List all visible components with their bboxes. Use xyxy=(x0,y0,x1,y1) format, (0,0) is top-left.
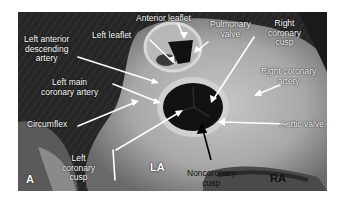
label-right-coronary-cusp: Right coronary cusp xyxy=(268,19,301,48)
label-left-coronary-cusp: Left coronary cusp xyxy=(62,154,95,183)
label-circumflex: Circumflex xyxy=(27,120,67,130)
panel-label: A xyxy=(26,175,34,185)
label-right-atrium: RA xyxy=(270,174,286,184)
label-left-main-coronary-artery: Left main coronary artery xyxy=(41,78,98,97)
label-right-coronary-artery: Right coronary artery xyxy=(261,67,316,86)
heart-valve-specimen-figure: Anterior leaflet Left leaflet Pulmonary … xyxy=(18,12,327,191)
label-left-anterior-descending-artery: Left anterior descending artery xyxy=(24,35,69,64)
label-noncoronary-cusp: Noncoronary cusp xyxy=(187,169,236,188)
label-anterior-leaflet: Anterior leaflet xyxy=(136,14,191,24)
label-left-atrium: LA xyxy=(150,163,165,173)
label-aortic-valve: Aortic valve xyxy=(280,120,324,130)
label-left-leaflet: Left leaflet xyxy=(92,31,131,41)
label-pulmonary-valve: Pulmonary valve xyxy=(210,20,251,39)
